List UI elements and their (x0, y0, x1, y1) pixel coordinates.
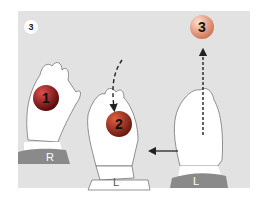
ball-3-label: 3 (198, 19, 206, 35)
ball-1-label: 1 (42, 90, 50, 106)
ball-2-label: 2 (115, 116, 123, 132)
hand-label-l-center: L (113, 176, 119, 188)
juggling-diagram: 1 2 3 (0, 0, 263, 213)
hand-label-l-right: L (193, 175, 199, 187)
hand-label-r: R (46, 151, 54, 163)
left-hand-center (88, 88, 150, 190)
left-hand-right (170, 88, 228, 188)
right-hand (18, 63, 81, 164)
